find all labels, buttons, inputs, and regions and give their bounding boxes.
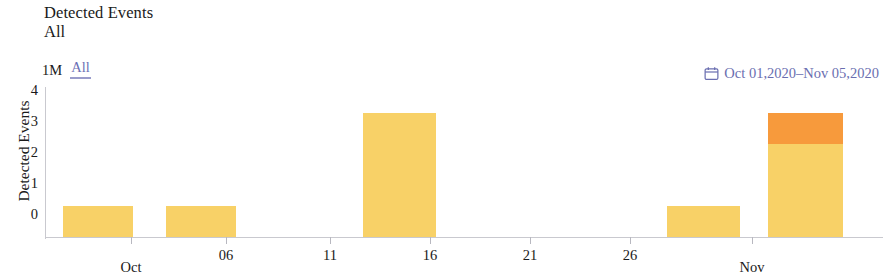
plot-area: Detected Events 4 3 2 1 0 — [0, 90, 887, 277]
x-tick-label-11: 11 — [323, 247, 337, 263]
x-axis-ticks: Oct 06 11 16 21 26 Nov — [0, 237, 887, 277]
bar-series-group — [0, 90, 887, 237]
x-tick-label-nov: Nov — [740, 259, 765, 275]
date-range-label: Oct 01,2020–Nov 05,2020 — [724, 65, 879, 82]
bar-3-segment-low — [363, 113, 436, 237]
bar-3[interactable] — [363, 113, 436, 237]
bar-5-segment-high — [768, 113, 843, 144]
x-tick-label-16: 16 — [423, 247, 438, 263]
page-subtitle: All — [44, 22, 65, 41]
page-title: Detected Events — [44, 3, 153, 22]
x-tick-label-26: 26 — [623, 247, 638, 263]
x-tick-label-oct: Oct — [121, 259, 142, 275]
bar-2[interactable] — [166, 206, 236, 237]
bar-5-segment-low — [768, 144, 843, 237]
bar-5[interactable] — [768, 113, 843, 237]
range-selector: 1M All — [41, 59, 91, 79]
date-range-picker[interactable]: Oct 01,2020–Nov 05,2020 — [704, 65, 879, 82]
range-option-1m[interactable]: 1M — [41, 62, 63, 79]
x-tick-label-06: 06 — [219, 247, 234, 263]
calendar-icon — [704, 66, 719, 81]
bar-4-segment-low — [667, 206, 740, 237]
range-option-all[interactable]: All — [70, 59, 91, 79]
bar-1[interactable] — [63, 206, 133, 237]
x-tick-label-21: 21 — [523, 247, 538, 263]
detected-events-chart-panel: Detected Events All 1M All Oct 01,2020–N… — [0, 0, 887, 277]
bar-1-segment-low — [63, 206, 133, 237]
bar-2-segment-low — [166, 206, 236, 237]
bar-4[interactable] — [667, 206, 740, 237]
